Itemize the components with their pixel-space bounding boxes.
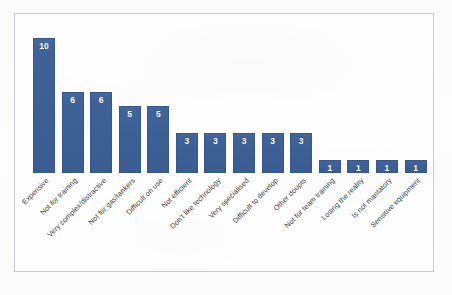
bar-value-label: 3 bbox=[213, 137, 218, 172]
bar-slot: 10 bbox=[30, 25, 58, 173]
bar-value-label: 3 bbox=[185, 137, 190, 172]
bar-slot: 1 bbox=[402, 25, 430, 173]
x-label-slot: Not for gas/tankers bbox=[116, 174, 145, 270]
bar-value-label: 5 bbox=[127, 110, 132, 172]
bar-slot: 6 bbox=[87, 25, 115, 173]
bar[interactable]: 1 bbox=[376, 160, 398, 173]
x-label-slot: Not for team training bbox=[316, 174, 345, 270]
bar[interactable]: 1 bbox=[319, 160, 341, 173]
bar-series-container: 106655333331111 bbox=[30, 25, 430, 173]
x-axis-category-labels: ExpensiveNot for trainingVery complex/di… bbox=[30, 174, 430, 270]
bar-slot: 6 bbox=[59, 25, 87, 173]
bar-slot: 3 bbox=[173, 25, 201, 173]
bar[interactable]: 6 bbox=[90, 92, 112, 173]
bar-value-label: 3 bbox=[299, 137, 304, 172]
bar-slot: 5 bbox=[116, 25, 144, 173]
bar[interactable]: 5 bbox=[119, 106, 141, 173]
bar[interactable]: 3 bbox=[233, 133, 255, 173]
bar[interactable]: 1 bbox=[347, 160, 369, 173]
bar[interactable]: 1 bbox=[405, 160, 427, 173]
bar-slot: 5 bbox=[144, 25, 172, 173]
bar-value-label: 6 bbox=[99, 96, 104, 172]
bar[interactable]: 3 bbox=[290, 133, 312, 173]
bar-slot: 3 bbox=[287, 25, 315, 173]
bar-slot: 3 bbox=[201, 25, 229, 173]
bar-slot: 1 bbox=[344, 25, 372, 173]
bar-value-label: 1 bbox=[413, 164, 418, 172]
bar[interactable]: 3 bbox=[262, 133, 284, 173]
bar-value-label: 3 bbox=[270, 137, 275, 172]
bar[interactable]: 10 bbox=[33, 38, 55, 173]
x-label-slot: Don't like technology bbox=[201, 174, 230, 270]
bar-value-label: 1 bbox=[385, 164, 390, 172]
bar[interactable]: 3 bbox=[204, 133, 226, 173]
bar-value-label: 6 bbox=[70, 96, 75, 172]
bar-slot: 3 bbox=[230, 25, 258, 173]
bar-value-label: 3 bbox=[242, 137, 247, 172]
chart-figure: 106655333331111 ExpensiveNot for trainin… bbox=[0, 0, 452, 295]
bar[interactable]: 3 bbox=[176, 133, 198, 173]
x-label-slot: Sensitive equipment bbox=[401, 174, 430, 270]
plot-area: 106655333331111 bbox=[30, 25, 430, 173]
bar-slot: 1 bbox=[373, 25, 401, 173]
bar-value-label: 1 bbox=[356, 164, 361, 172]
bar[interactable]: 6 bbox=[62, 92, 84, 173]
bar-value-label: 10 bbox=[39, 42, 48, 172]
bar[interactable]: 5 bbox=[147, 106, 169, 173]
bar-value-label: 5 bbox=[156, 110, 161, 172]
bar-slot: 1 bbox=[316, 25, 344, 173]
bar-value-label: 1 bbox=[327, 164, 332, 172]
bar-slot: 3 bbox=[259, 25, 287, 173]
